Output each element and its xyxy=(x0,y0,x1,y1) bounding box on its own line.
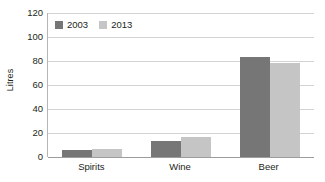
bar-group xyxy=(240,13,300,157)
y-axis-title: Litres xyxy=(2,0,18,160)
y-axis-tick-labels: 020406080100120 xyxy=(18,13,43,157)
y-axis-title-text: Litres xyxy=(5,69,15,92)
bar xyxy=(270,63,300,157)
y-axis-tick-label: 100 xyxy=(18,32,43,42)
bar xyxy=(92,149,122,157)
legend-swatch-icon xyxy=(55,21,63,29)
bar xyxy=(62,150,92,157)
chart-legend: 20032013 xyxy=(55,20,132,30)
legend-label: 2013 xyxy=(111,20,132,30)
bar-group xyxy=(62,13,122,157)
plot-area xyxy=(47,13,314,157)
y-axis-tick-label: 120 xyxy=(18,8,43,18)
x-axis-category-labels: SpiritsWineBeer xyxy=(47,160,313,176)
bar-chart: Litres 020406080100120 SpiritsWineBeer 2… xyxy=(0,0,325,182)
x-axis-category-label: Wine xyxy=(169,160,191,174)
y-axis-tick-label: 20 xyxy=(18,128,43,138)
y-axis-tick-label: 60 xyxy=(18,80,43,90)
x-axis-category-label: Beer xyxy=(259,160,279,174)
bar-group xyxy=(151,13,211,157)
bars-layer xyxy=(48,13,314,157)
legend-entry: 2013 xyxy=(99,20,132,30)
legend-entry: 2003 xyxy=(55,20,88,30)
bar xyxy=(181,137,211,157)
legend-swatch-icon xyxy=(99,21,107,29)
y-axis-tick-label: 0 xyxy=(18,152,43,162)
legend-label: 2003 xyxy=(67,20,88,30)
bar xyxy=(240,57,270,157)
x-axis-category-label: Spirits xyxy=(78,160,104,174)
y-axis-tick-label: 40 xyxy=(18,104,43,114)
y-axis-tick-label: 80 xyxy=(18,56,43,66)
axis-baseline xyxy=(48,157,314,158)
bar xyxy=(151,141,181,157)
